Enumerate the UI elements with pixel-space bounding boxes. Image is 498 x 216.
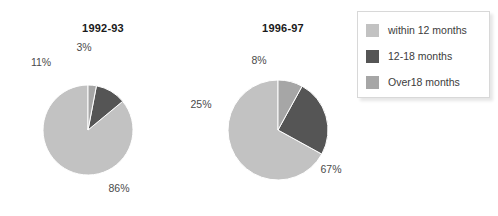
pie-chart-1992-93: [43, 85, 133, 175]
slice-label-1996-within-12: 67%: [312, 163, 350, 175]
legend-label-12-18-months: 12-18 months: [388, 50, 452, 62]
slice-label-1992-12-18: 11%: [22, 56, 60, 68]
legend-swatch-12-18-months-icon: [366, 50, 379, 63]
pie-chart-figure: 1992-93 1996-97 3% 11% 86% 8% 25% 67% wi…: [0, 0, 498, 216]
legend-item-12-18-months: 12-18 months: [366, 48, 452, 64]
legend-swatch-over-18-months-icon: [366, 76, 379, 89]
legend-swatch-within-12-months-icon: [366, 24, 379, 37]
slice-label-1996-12-18: 25%: [182, 98, 220, 110]
slice-label-1996-over-18: 8%: [242, 54, 276, 66]
slice-label-1992-within-12: 86%: [100, 182, 138, 194]
legend: within 12 months 12-18 months Over18 mon…: [357, 11, 490, 98]
legend-label-over-18-months: Over18 months: [388, 76, 460, 88]
legend-item-within-12-months: within 12 months: [366, 22, 467, 38]
legend-item-over-18-months: Over18 months: [366, 74, 460, 90]
legend-label-within-12-months: within 12 months: [388, 24, 467, 36]
slice-label-1992-over-18: 3%: [66, 41, 102, 53]
